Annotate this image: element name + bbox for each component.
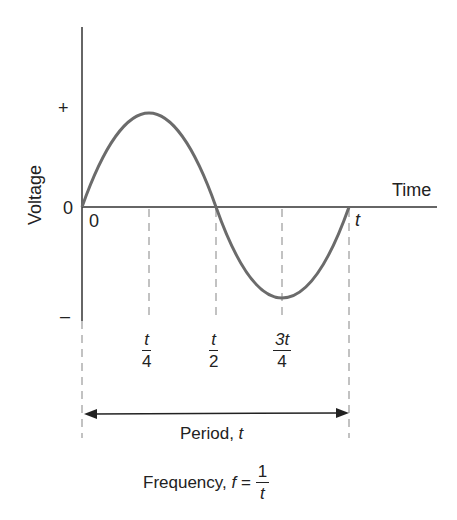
y-axis-label: Voltage xyxy=(26,165,44,225)
t-end-tick: t xyxy=(355,211,360,229)
plus-tick: + xyxy=(58,99,69,117)
tick-quarter: t 4 xyxy=(142,331,151,370)
zero-x-tick: 0 xyxy=(89,212,99,230)
tick-half-den: 2 xyxy=(209,351,218,370)
minus-tick: – xyxy=(60,307,70,325)
period-arrow xyxy=(84,408,349,419)
period-text: Period, xyxy=(180,424,239,443)
frequency-equals: = xyxy=(236,474,255,491)
zero-y-tick: 0 xyxy=(63,199,73,217)
frequency-text: Frequency, xyxy=(143,474,232,491)
tick-quarter-den: 4 xyxy=(142,351,151,370)
tick-half: t 2 xyxy=(209,331,218,370)
x-axis-label: Time xyxy=(392,181,431,199)
tick-quarter-num: t xyxy=(142,331,151,351)
frequency-label: Frequency, f = 1 t xyxy=(143,463,269,502)
frequency-num: 1 xyxy=(256,463,269,483)
period-symbol: t xyxy=(239,424,244,443)
tick-three-quarter-num: 3t xyxy=(273,331,291,351)
tick-three-quarter: 3t 4 xyxy=(273,331,291,370)
dashed-guides xyxy=(82,209,349,438)
period-label: Period, t xyxy=(180,425,243,442)
frequency-fraction: 1 t xyxy=(256,463,269,502)
frequency-den: t xyxy=(260,483,265,502)
tick-half-num: t xyxy=(209,331,218,351)
tick-three-quarter-den: 4 xyxy=(277,351,286,370)
